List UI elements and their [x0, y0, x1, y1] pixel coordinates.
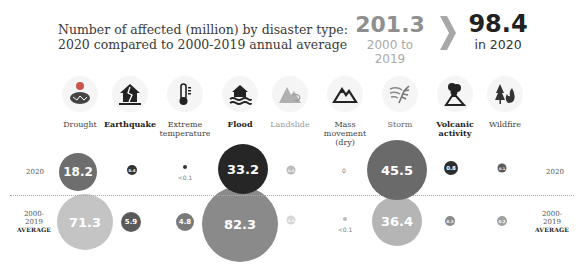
- column-label: Flood: [212, 120, 268, 129]
- drought-icon: [62, 76, 98, 112]
- bubble-2020-flood: 33.2: [218, 144, 268, 194]
- avg-label-line2: 2019: [14, 218, 54, 226]
- old-total-value: 201.3: [353, 12, 427, 38]
- column-label: Mass movement (dry): [317, 120, 373, 147]
- column-label: Extreme temperature: [157, 120, 213, 138]
- row-label-average-right: 2000- 2019 AVERAGE: [532, 210, 572, 234]
- column-storm: Storm: [372, 76, 428, 129]
- column-label: Volcanic activity: [427, 120, 483, 138]
- bubble-avg-volcanic-activity: 0.3: [445, 216, 455, 226]
- bubble-2020-wildfire: 0.1: [498, 164, 507, 173]
- column-earthquake: Earthquake: [102, 76, 158, 129]
- bubble-2020-earthquake: 0.4: [127, 165, 137, 175]
- chart-title: Number of affected (million) by disaster…: [58, 22, 348, 52]
- column-label: Earthquake: [102, 120, 158, 129]
- new-total-block: 98.4 in 2020: [462, 10, 534, 52]
- title-line-1: Number of affected (million) by disaster…: [58, 22, 348, 37]
- new-total-value: 98.4: [462, 10, 534, 38]
- bubble-2020-extreme-temperature: [183, 165, 187, 169]
- row-label-2020-left: 2020: [20, 168, 50, 176]
- column-drought: Drought: [52, 76, 108, 129]
- avg-label-word: AVERAGE: [535, 226, 569, 233]
- value-2020-extreme-temperature: <0.1: [178, 174, 193, 181]
- flood-icon: [222, 76, 258, 112]
- avg-label-word: AVERAGE: [17, 226, 51, 233]
- column-label: Wildfire: [477, 120, 533, 129]
- mountain-icon: [327, 76, 363, 112]
- wildfire-icon: [487, 76, 523, 112]
- volcano-icon: [437, 76, 473, 112]
- row-label-average-left: 2000- 2019 AVERAGE: [14, 210, 54, 234]
- column-flood: Flood: [212, 76, 268, 129]
- avg-label-line2: 2019: [532, 218, 572, 226]
- earthquake-icon: [112, 76, 148, 112]
- column-wildfire: Wildfire: [477, 76, 533, 129]
- bubble-avg-mass-movement: [343, 217, 347, 221]
- bubble-2020-landslide: 0.2: [287, 166, 296, 175]
- avg-label-line1: 2000-: [14, 210, 54, 218]
- bubble-avg-wildfire: 0.2: [497, 216, 507, 226]
- bubble-avg-storm: 36.4: [372, 196, 422, 246]
- old-total-block: 201.3 2000 to 2019: [353, 12, 427, 66]
- thermometer-icon: [167, 76, 203, 112]
- bubble-avg-extreme-temperature: 4.8: [176, 213, 194, 231]
- old-total-period: 2000 to 2019: [353, 38, 427, 66]
- bubble-avg-landslide: 0.3: [287, 216, 296, 225]
- column-volcanic-activity: Volcanic activity: [427, 76, 483, 138]
- column-landslide: Landslide: [262, 76, 318, 129]
- bubble-2020-drought: 18.2: [59, 153, 97, 191]
- bubble-avg-earthquake: 5.9: [121, 212, 141, 232]
- avg-label-line1: 2000-: [532, 210, 572, 218]
- title-line-2: 2020 compared to 2000-2019 annual averag…: [58, 37, 348, 52]
- column-mass-movement: Mass movement (dry): [317, 76, 373, 147]
- storm-icon: [382, 76, 418, 112]
- landslide-icon: [272, 76, 308, 112]
- row-label-2020-right: 2020: [540, 168, 570, 176]
- value-avg-mass-movement: <0.1: [338, 226, 353, 233]
- value-2020-mass-movement: 0: [342, 167, 346, 174]
- chevron-right-icon: [438, 14, 458, 52]
- bubble-avg-flood: 82.3: [202, 186, 278, 262]
- column-label: Landslide: [262, 120, 318, 129]
- column-label: Drought: [52, 120, 108, 129]
- row-divider: [10, 195, 574, 196]
- column-label: Storm: [372, 120, 428, 129]
- bubble-2020-storm: 45.5: [367, 140, 427, 200]
- bubble-avg-drought: 71.3: [57, 194, 113, 250]
- bubble-2020-volcanic-activity: 0.8: [444, 161, 458, 175]
- column-extreme-temperature: Extreme temperature: [157, 76, 213, 138]
- new-total-period: in 2020: [462, 38, 534, 52]
